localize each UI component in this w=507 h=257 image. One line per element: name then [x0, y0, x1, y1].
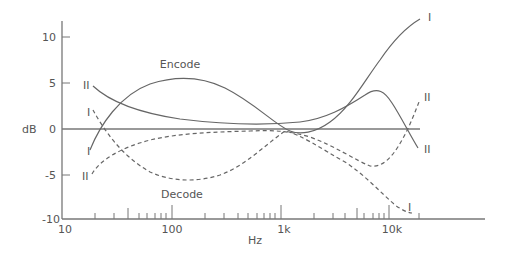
label-encode-I-start: I — [87, 145, 90, 158]
decode-curve-I — [93, 110, 412, 213]
encode-curve-I — [90, 19, 420, 150]
curve-labels: I II II I II I I II — [82, 11, 431, 214]
y-tick-0: 0 — [49, 123, 56, 136]
x-ticks — [95, 205, 419, 219]
x-axis-title: Hz — [248, 234, 262, 247]
x-tick-1k: 1k — [277, 223, 291, 236]
y-axis-title: dB — [22, 123, 37, 136]
decode-curve-II — [92, 102, 419, 174]
decode-annotation: Decode — [161, 188, 203, 201]
encode-curve-II — [93, 86, 418, 148]
label-encode-I-end: I — [428, 11, 431, 24]
frequency-response-chart: 10 5 0 -5 -10 dB 10 — [0, 0, 507, 257]
y-tick-5: 5 — [49, 77, 56, 90]
label-decode-II-start: II — [82, 170, 89, 183]
x-tick-10: 10 — [58, 223, 72, 236]
x-tick-labels: 10 100 1k 10k — [58, 223, 403, 236]
x-tick-10k: 10k — [382, 223, 403, 236]
label-decode-I-end: I — [408, 201, 411, 214]
x-tick-100: 100 — [162, 223, 183, 236]
encode-annotation: Encode — [160, 58, 201, 71]
label-encode-II-start: II — [83, 79, 90, 92]
y-ticks — [62, 37, 70, 175]
y-tick-10: 10 — [42, 31, 56, 44]
label-decode-I-start: I — [87, 106, 90, 119]
label-encode-II-end: II — [424, 143, 431, 156]
label-decode-II-end: II — [424, 91, 431, 104]
y-tick-neg5: -5 — [45, 169, 56, 182]
y-tick-labels: 10 5 0 -5 -10 — [42, 31, 60, 226]
